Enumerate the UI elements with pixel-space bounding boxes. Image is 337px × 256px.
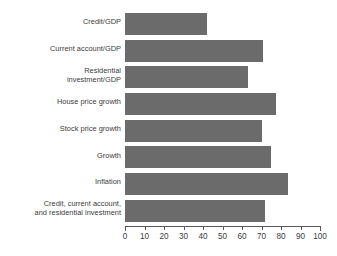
x-axis-tick-100: [320, 226, 321, 231]
x-axis-tick-label-0: 0: [123, 232, 128, 242]
bar-current-account-gdp: [125, 40, 263, 62]
x-axis-tick-label-30: 30: [179, 232, 188, 242]
x-axis-tick-70: [262, 226, 263, 230]
x-axis-tick-label-40: 40: [198, 232, 207, 242]
x-axis-tick-80: [281, 226, 282, 230]
category-label-current-account-gdp: Current account/GDP: [0, 44, 121, 53]
bar-stock-price-growth: [125, 120, 262, 142]
bar-residential-investment-gdp: [125, 66, 248, 88]
x-axis-tick-label-50: 50: [218, 232, 227, 242]
x-axis-tick-label-90: 90: [296, 232, 305, 242]
x-axis-tick-40: [203, 226, 204, 230]
x-axis-tick-label-10: 10: [140, 232, 149, 242]
x-axis-tick-label-60: 60: [237, 232, 246, 242]
x-axis-tick-90: [301, 226, 302, 230]
category-label-stock-price-growth: Stock price growth: [0, 124, 121, 133]
category-label-inflation: Inflation: [0, 177, 121, 186]
bar-growth: [125, 146, 271, 168]
x-axis-tick-60: [242, 226, 243, 230]
bar-credit-current-account-residential-investment: [125, 200, 265, 222]
category-label-house-price-growth: House price growth: [0, 97, 121, 106]
category-label-residential-investment-gdp: Residential investment/GDP: [0, 66, 121, 84]
x-axis-tick-0: [125, 226, 126, 231]
category-label-growth: Growth: [0, 151, 121, 160]
bar-credit-gdp: [125, 13, 207, 35]
bar-inflation: [125, 173, 288, 195]
x-axis-tick-20: [164, 226, 165, 230]
plot-area: [125, 0, 320, 226]
category-axis-labels: Credit/GDP Current account/GDP Residenti…: [0, 0, 121, 226]
bar-chart: Credit/GDP Current account/GDP Residenti…: [0, 0, 337, 256]
x-axis-tick-label-100: 100: [313, 232, 327, 242]
x-axis-tick-50: [223, 226, 224, 230]
x-axis-tick-label-70: 70: [257, 232, 266, 242]
category-label-credit-current-account-residential-investment: Credit, current account, and residential…: [0, 199, 121, 217]
x-axis-tick-label-20: 20: [159, 232, 168, 242]
x-axis-tick-10: [145, 226, 146, 230]
x-axis-tick-label-80: 80: [276, 232, 285, 242]
category-label-credit-gdp: Credit/GDP: [0, 17, 121, 26]
x-axis-tick-30: [184, 226, 185, 230]
bar-house-price-growth: [125, 93, 276, 115]
